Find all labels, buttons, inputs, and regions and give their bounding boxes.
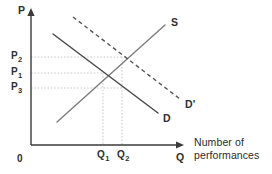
demand-curve-label: D — [163, 113, 171, 124]
quantity-tick-q1-base: Q — [97, 149, 105, 160]
y-axis-arrowhead — [27, 8, 34, 16]
guide-lines — [31, 57, 122, 145]
x-axis-title: Number of performances — [194, 136, 259, 161]
price-tick-p1-base: P — [11, 66, 18, 77]
demand-shifted-curve-label: D' — [185, 99, 195, 110]
x-axis-title-line2: performances — [194, 149, 259, 162]
supply-curve-label: S — [171, 17, 178, 28]
quantity-tick-q1-sub: 1 — [105, 154, 109, 163]
x-axis-arrowhead — [176, 141, 184, 148]
quantity-tick-q1: Q1 — [97, 150, 109, 160]
quantity-tick-q2: Q2 — [117, 150, 129, 160]
price-tick-p3-sub: 3 — [18, 86, 22, 95]
x-axis-title-line1: Number of — [194, 136, 259, 149]
price-tick-p3: P3 — [11, 82, 22, 92]
demand-shifted-curve — [73, 17, 180, 99]
x-axis-label: Q — [176, 152, 184, 163]
y-axis-label: P — [18, 5, 25, 16]
supply-demand-diagram: P P2 P1 P3 Q1 Q2 S D D' 0 Q Number of pe… — [0, 0, 272, 174]
supply-curve — [57, 25, 165, 122]
price-tick-p2: P2 — [11, 51, 22, 61]
price-tick-p1: P1 — [11, 67, 22, 77]
price-tick-p2-base: P — [11, 50, 18, 61]
quantity-tick-q2-sub: 2 — [125, 154, 129, 163]
quantity-tick-q2-base: Q — [117, 149, 125, 160]
origin-label: 0 — [17, 154, 23, 164]
price-tick-p3-base: P — [11, 81, 18, 92]
price-tick-p1-sub: 1 — [18, 71, 22, 80]
price-tick-p2-sub: 2 — [18, 55, 22, 64]
